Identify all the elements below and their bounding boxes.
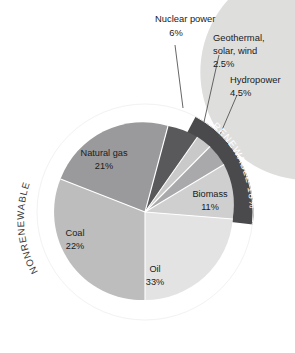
geothermal-callout-label-line2: solar, wind	[213, 45, 257, 56]
natural-gas-label: Natural gas	[81, 148, 128, 158]
coal-value: 22%	[66, 241, 84, 251]
natural-gas-value: 21%	[95, 161, 113, 171]
hydropower-callout-label: Hydropower	[230, 74, 281, 85]
biomass-value: 11%	[201, 202, 219, 212]
ring-label-nonrenewable: NONRENEWABLE 82%	[0, 0, 40, 276]
nuclear-callout-value: 6%	[169, 27, 183, 38]
callout-nuclear-power: Nuclear power 6%	[155, 13, 215, 38]
energy-sources-pie-chart: Nuclear power 6% Geothermal, solar, wind…	[0, 0, 295, 353]
nuclear-callout-label: Nuclear power	[155, 13, 215, 24]
pie-chart-figure: Nuclear power 6% Geothermal, solar, wind…	[0, 0, 295, 353]
oil-value: 33%	[146, 277, 164, 287]
biomass-label: Biomass	[192, 189, 228, 199]
leader-line-nuclear	[175, 45, 183, 108]
coal-label: Coal	[66, 228, 85, 238]
geothermal-callout-value: 2.5%	[213, 58, 234, 69]
geothermal-callout-label-line1: Geothermal,	[213, 32, 265, 43]
oil-label: Oil	[149, 264, 160, 274]
hydropower-callout-value: 4.5%	[230, 87, 251, 98]
